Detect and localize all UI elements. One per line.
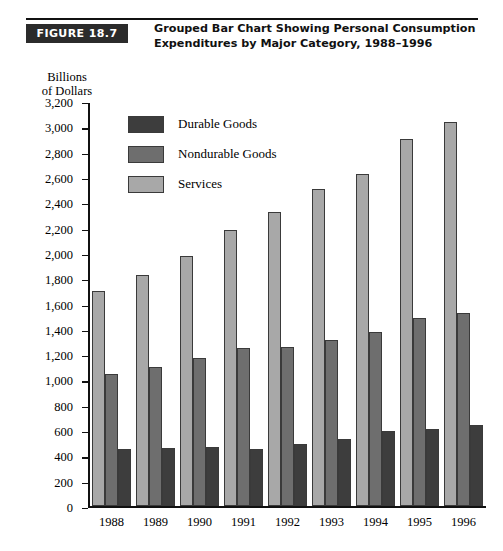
y-axis-tick: 1,800 (82, 280, 88, 281)
y-axis-tick-label: 800 (27, 399, 73, 414)
figure-title-line-1: Grouped Bar Chart Showing Personal Consu… (154, 22, 484, 37)
y-axis-tick-label: 1,000 (27, 374, 73, 389)
y-axis-tick: 2,800 (82, 154, 88, 155)
legend-swatch-durable (128, 116, 164, 133)
bar-group: 1993 (310, 103, 354, 506)
y-axis-tick: 2,000 (82, 255, 88, 256)
header-rule (26, 18, 478, 20)
bar-nondurable-1995[interactable] (413, 318, 426, 506)
bar-nondurable-1991[interactable] (237, 348, 250, 506)
y-axis-tick-label: 2,600 (27, 171, 73, 186)
x-axis-tick-label: 1994 (363, 515, 388, 530)
bar-services-1989[interactable] (136, 275, 149, 507)
y-axis-tick-label: 400 (27, 450, 73, 465)
y-axis-title-line-1: Billions (30, 70, 104, 84)
bar-durable-1993[interactable] (338, 439, 351, 506)
y-axis-tick: 0 (82, 508, 88, 509)
x-axis-tick-label: 1988 (99, 515, 124, 530)
bar-services-1995[interactable] (400, 139, 413, 506)
x-axis-tick-label: 1995 (407, 515, 432, 530)
y-axis-tick: 3,000 (82, 128, 88, 129)
y-axis-tick-label: 1,400 (27, 323, 73, 338)
bar-services-1992[interactable] (268, 212, 281, 506)
y-axis-tick-label: 2,800 (27, 146, 73, 161)
legend-item-durable[interactable]: Durable Goods (128, 111, 308, 137)
bar-nondurable-1989[interactable] (149, 367, 162, 507)
figure-title: Grouped Bar Chart Showing Personal Consu… (154, 22, 484, 51)
y-axis-tick-label: 600 (27, 425, 73, 440)
bar-services-1991[interactable] (224, 230, 237, 507)
legend-item-services[interactable]: Services (128, 171, 308, 197)
figure-header: FIGURE 18.7 Grouped Bar Chart Showing Pe… (26, 18, 478, 66)
legend-swatch-services (128, 176, 164, 193)
bar-nondurable-1996[interactable] (457, 313, 470, 507)
x-axis-tick-label: 1993 (319, 515, 344, 530)
y-axis-tick-label: 3,200 (27, 96, 73, 111)
bar-services-1993[interactable] (312, 189, 325, 507)
bar-services-1988[interactable] (92, 291, 105, 506)
y-axis-tick-label: 1,800 (27, 273, 73, 288)
figure-number-badge: FIGURE 18.7 (26, 24, 128, 43)
y-axis-tick: 2,600 (82, 179, 88, 180)
y-axis-tick-label: 2,400 (27, 197, 73, 212)
bar-services-1990[interactable] (180, 256, 193, 506)
bar-services-1996[interactable] (444, 122, 457, 507)
bar-services-1994[interactable] (356, 174, 369, 507)
y-axis-title: Billions of Dollars (30, 70, 104, 98)
y-axis-tick: 400 (82, 457, 88, 458)
y-axis-tick: 600 (82, 432, 88, 433)
bar-group: 1988 (90, 103, 134, 506)
bar-durable-1995[interactable] (426, 429, 439, 507)
bar-nondurable-1988[interactable] (105, 374, 118, 507)
x-axis-tick-label: 1991 (231, 515, 256, 530)
y-axis-tick: 1,200 (82, 356, 88, 357)
legend-item-nondurable[interactable]: Nondurable Goods (128, 141, 308, 167)
y-axis-tick: 200 (82, 483, 88, 484)
bar-group: 1996 (442, 103, 486, 506)
bar-durable-1989[interactable] (162, 448, 175, 506)
legend-label-services: Services (178, 176, 222, 192)
bar-durable-1988[interactable] (118, 449, 131, 506)
x-axis-tick-label: 1996 (451, 515, 476, 530)
y-axis-tick-label: 1,200 (27, 349, 73, 364)
y-axis-tick-label: 3,000 (27, 121, 73, 136)
bar-durable-1991[interactable] (250, 449, 263, 506)
bar-group: 1995 (398, 103, 442, 506)
y-axis-tick-label: 2,200 (27, 222, 73, 237)
bar-durable-1990[interactable] (206, 447, 219, 506)
y-axis-tick: 2,400 (82, 204, 88, 205)
y-axis-tick-label: 200 (27, 475, 73, 490)
y-axis-tick: 1,000 (82, 381, 88, 382)
y-axis-tick-label: 2,000 (27, 247, 73, 262)
x-axis-tick-label: 1989 (143, 515, 168, 530)
y-axis-tick: 2,200 (82, 230, 88, 231)
bar-durable-1996[interactable] (470, 425, 483, 507)
x-axis-line (88, 506, 486, 508)
y-axis-tick-label: 0 (27, 501, 73, 516)
x-axis-tick-label: 1992 (275, 515, 300, 530)
y-axis-tick: 3,200 (82, 103, 88, 104)
x-axis-tick-label: 1990 (187, 515, 212, 530)
chart-legend: Durable GoodsNondurable GoodsServices (128, 111, 308, 201)
bar-nondurable-1993[interactable] (325, 340, 338, 506)
y-axis-tick: 1,600 (82, 306, 88, 307)
legend-label-durable: Durable Goods (178, 116, 257, 132)
figure-title-line-2: Expenditures by Major Category, 1988–199… (154, 37, 484, 52)
bar-group: 1994 (354, 103, 398, 506)
legend-label-nondurable: Nondurable Goods (178, 146, 277, 162)
y-axis-tick: 800 (82, 407, 88, 408)
y-axis-tick: 1,400 (82, 331, 88, 332)
y-axis-tick-label: 1,600 (27, 298, 73, 313)
bar-nondurable-1990[interactable] (193, 358, 206, 507)
legend-swatch-nondurable (128, 146, 164, 163)
bar-nondurable-1992[interactable] (281, 347, 294, 506)
bar-durable-1992[interactable] (294, 444, 307, 506)
bar-durable-1994[interactable] (382, 431, 395, 506)
bar-nondurable-1994[interactable] (369, 332, 382, 507)
